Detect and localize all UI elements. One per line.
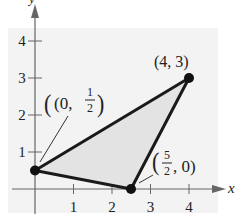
coordinate-plane: x y 1 2 3 4 1 2 3 4 ( (0, 1 2 ) (4, 3) [0,0,239,221]
svg-text:(0,: (0, [54,94,72,113]
x-tick-label-4: 4 [185,199,193,215]
vertex-label-4-3: (4, 3) [154,53,189,71]
vertex-4-3 [184,73,194,83]
y-tick-label-3: 3 [18,70,26,86]
x-tick-label-3: 3 [147,199,155,215]
svg-text:(: ( [44,89,51,117]
x-tick-label-1: 1 [70,199,78,215]
svg-text:(: ( [152,148,160,175]
y-tick-label-1: 1 [18,144,26,160]
x-tick-label-2: 2 [108,199,116,215]
vertex-0-half [30,166,40,176]
vertex-5half-0 [126,184,136,194]
y-axis-arrow-icon [31,4,39,18]
svg-text:): ) [97,89,104,117]
svg-text:, 0): , 0) [173,157,196,176]
svg-text:1: 1 [87,85,93,99]
y-tick-label-2: 2 [18,107,26,123]
y-axis-label: y [27,0,35,6]
x-axis-arrow-icon [212,185,226,193]
svg-text:2: 2 [164,164,170,178]
x-axis-label: x [227,180,235,196]
svg-text:5: 5 [164,148,170,162]
svg-text:2: 2 [87,101,93,115]
y-tick-label-4: 4 [18,33,26,49]
